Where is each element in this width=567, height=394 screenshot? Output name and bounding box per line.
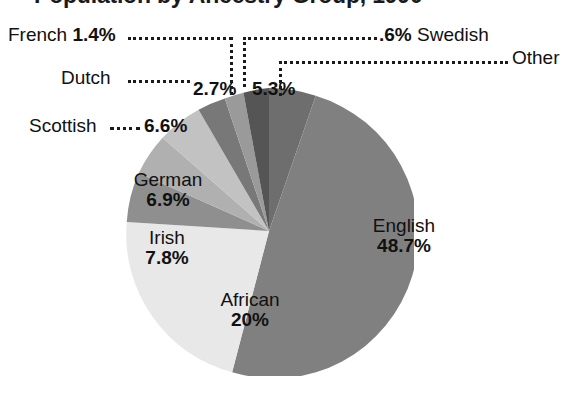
- slice-label-irish: Irish 7.8%: [128, 228, 206, 268]
- slice-label-african: African 20%: [205, 290, 295, 330]
- slice-label-african-pct: 20%: [205, 310, 295, 330]
- slice-label-scottish-pct-wrap: 6.6%: [144, 116, 187, 136]
- leader-other-vertical: [279, 61, 282, 96]
- slice-label-irish-name: Irish: [128, 228, 206, 248]
- slice-label-other-pct-wrap: 5.3%: [252, 79, 295, 99]
- leader-swedish-horizontal: [243, 37, 377, 40]
- slice-label-swedish: .6% Swedish: [379, 25, 489, 45]
- slice-label-german-name: German: [118, 170, 218, 190]
- slice-label-german: German 6.9%: [118, 170, 218, 210]
- slice-label-other-name-wrap: Other: [512, 48, 560, 68]
- leader-swedish-vertical: [243, 37, 246, 87]
- slice-label-dutch-name-wrap: Dutch: [61, 68, 111, 88]
- slice-label-scottish: Scottish: [29, 116, 97, 136]
- slice-label-dutch-name: Dutch: [61, 67, 111, 88]
- chart-title: Population by Ancestry Group, 1990: [34, 0, 423, 9]
- slice-label-other-pct: 5.3%: [252, 78, 295, 99]
- leader-scottish-horizontal: [110, 127, 140, 130]
- slice-label-french-name: French: [8, 24, 67, 45]
- leader-french-horizontal: [128, 37, 232, 40]
- leader-french-vertical: [230, 37, 233, 95]
- slice-label-irish-pct: 7.8%: [128, 248, 206, 268]
- pie-chart-screenshot: Population by Ancestry Group, 1990: [0, 0, 567, 394]
- slice-label-english-name: English: [358, 216, 450, 236]
- slice-label-scottish-name: Scottish: [29, 115, 97, 136]
- slice-label-french: French 1.4%: [8, 25, 116, 45]
- leader-dutch-horizontal: [128, 80, 190, 83]
- slice-label-african-name: African: [205, 290, 295, 310]
- slice-label-scottish-pct: 6.6%: [144, 115, 187, 136]
- slice-label-german-pct: 6.9%: [118, 190, 218, 210]
- slice-label-french-pct: 1.4%: [72, 24, 115, 45]
- slice-label-english: English 48.7%: [358, 216, 450, 256]
- slice-label-english-pct: 48.7%: [358, 236, 450, 256]
- slice-label-other-name: Other: [512, 47, 560, 68]
- leader-other-horizontal: [279, 61, 508, 64]
- slice-label-swedish-pct: .6%: [379, 24, 412, 45]
- slice-label-swedish-name: Swedish: [417, 24, 489, 45]
